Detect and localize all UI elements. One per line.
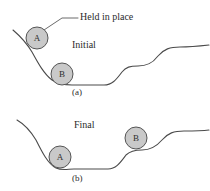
terrain-curve-panel-b bbox=[17, 120, 209, 170]
ball-a-final-label: A bbox=[57, 152, 64, 162]
panel-b-group: A B bbox=[17, 120, 209, 170]
figure-canvas: A B A B bbox=[0, 0, 210, 191]
panel-a-state-label: Initial bbox=[72, 40, 96, 50]
panel-b-caption: (b) bbox=[72, 174, 83, 183]
panel-a-group: A B bbox=[13, 18, 209, 85]
ball-b-initial: B bbox=[51, 63, 73, 85]
ball-b-final: B bbox=[125, 127, 147, 149]
ball-a-initial-label: A bbox=[34, 33, 41, 43]
panel-a-caption: (a) bbox=[72, 88, 82, 97]
held-in-place-leader-line bbox=[44, 18, 78, 30]
ball-a-final: A bbox=[49, 146, 71, 168]
ball-a-initial: A bbox=[26, 27, 48, 49]
physics-figure: A B A B Held in place Initial (a) Final … bbox=[0, 0, 210, 191]
ball-b-initial-label: B bbox=[59, 69, 65, 79]
panel-b-state-label: Final bbox=[74, 120, 95, 130]
ball-b-final-label: B bbox=[133, 133, 139, 143]
held-in-place-annotation: Held in place bbox=[80, 12, 133, 22]
